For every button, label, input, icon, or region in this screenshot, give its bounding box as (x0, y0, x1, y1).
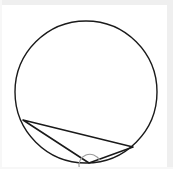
angle-arc-icon (79, 154, 100, 168)
frame-edge-top (0, 0, 173, 5)
circumscribed-circle (15, 21, 157, 163)
frame-edge-bottom (0, 167, 173, 169)
frame-edge-right (167, 0, 173, 169)
geometry-figure-canvas: Triangle inscribed in a circle with mark… (0, 0, 173, 169)
frame-edge-left (0, 0, 2, 169)
figure-container: Triangle inscribed in a circle with mark… (0, 0, 173, 169)
